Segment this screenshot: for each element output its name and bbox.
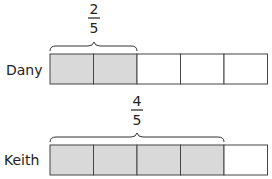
dany-cell-3 <box>137 54 181 84</box>
dany-brace <box>50 42 137 51</box>
dany-cell-4 <box>181 54 225 84</box>
keith-cell-1-shaded <box>50 145 94 175</box>
dany-cell-5 <box>224 54 268 84</box>
bar-keith: 4 5 Keith <box>4 93 268 175</box>
bar-dany: 2 5 Dany <box>6 1 268 84</box>
fraction-bar-diagram: 2 5 Dany 4 5 Keith <box>0 0 272 179</box>
keith-fraction-numerator: 4 <box>133 93 142 109</box>
keith-cell-5 <box>224 145 268 175</box>
keith-brace <box>50 133 224 142</box>
keith-cell-2-shaded <box>94 145 138 175</box>
keith-fraction-denominator: 5 <box>133 112 142 128</box>
keith-cell-4-shaded <box>181 145 225 175</box>
keith-cell-3-shaded <box>137 145 181 175</box>
dany-cell-1-shaded <box>50 54 94 84</box>
dany-label: Dany <box>6 62 43 78</box>
dany-fraction-numerator: 2 <box>90 1 99 17</box>
dany-cell-2-shaded <box>94 54 138 84</box>
keith-label: Keith <box>4 152 39 168</box>
dany-fraction-denominator: 5 <box>90 20 99 36</box>
